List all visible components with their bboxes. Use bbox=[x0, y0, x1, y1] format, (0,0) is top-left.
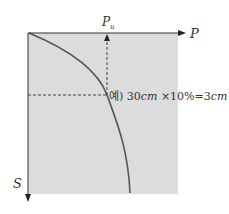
annotation-times: × bbox=[161, 90, 170, 103]
annotation-unit3: cm bbox=[211, 90, 228, 103]
p-axis-label: P bbox=[189, 26, 199, 41]
annotation-value1: 30 bbox=[127, 90, 141, 103]
pu-label-subscript: u bbox=[110, 23, 115, 31]
pressure-settlement-diagram: P S Pu 예) 30cm ×10%=3cm bbox=[0, 0, 229, 214]
s-axis-label: S bbox=[13, 176, 22, 191]
annotation-value3: 3 bbox=[204, 90, 211, 103]
arrow-right-icon bbox=[178, 30, 186, 36]
arrow-down-icon bbox=[25, 194, 31, 202]
annotation-value2: 10% bbox=[170, 90, 194, 103]
annotation-equals: = bbox=[195, 90, 204, 103]
annotation-prefix: 예) bbox=[109, 90, 123, 103]
annotation-unit1: cm bbox=[141, 90, 158, 103]
pu-label: Pu bbox=[101, 15, 115, 31]
plot-area bbox=[28, 33, 178, 194]
example-annotation: 예) 30cm ×10%=3cm bbox=[109, 90, 227, 103]
